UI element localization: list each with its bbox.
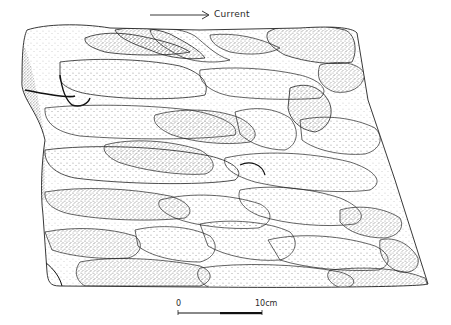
rock-surface-illustration xyxy=(0,0,451,325)
arrow-right-icon xyxy=(150,11,209,19)
slab xyxy=(20,25,428,288)
scale-bar xyxy=(178,310,262,315)
scale-end-label: 10cm xyxy=(255,299,277,308)
scale-start-label: 0 xyxy=(176,299,181,308)
current-direction-label: Current xyxy=(214,9,250,19)
